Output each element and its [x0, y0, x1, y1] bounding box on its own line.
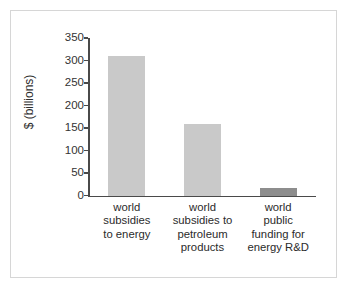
y-axis-tick-mark	[84, 195, 88, 196]
y-axis-tick: 200	[42, 106, 84, 107]
category-label: world subsidies to petroleum products	[163, 201, 243, 255]
y-axis-tick-mark	[84, 150, 88, 151]
bar-chart-plot: $ (billions) 050100150200250300350 world…	[0, 0, 349, 290]
bar-column	[108, 38, 145, 196]
bar	[260, 188, 297, 196]
bars-container	[89, 38, 316, 196]
y-axis-tick: 300	[42, 61, 84, 62]
y-axis-tick: 100	[42, 151, 84, 152]
y-axis-tick: 150	[42, 128, 84, 129]
y-axis-tick: 350	[42, 38, 84, 39]
y-axis-tick-label: 300	[48, 55, 84, 67]
category-label: world subsidies to energy	[87, 201, 167, 241]
y-axis-tick-label: 350	[48, 32, 84, 44]
chart-figure: $ (billions) 050100150200250300350 world…	[0, 0, 349, 290]
y-axis-tick-mark	[84, 60, 88, 61]
bar	[108, 56, 145, 196]
y-axis-tick: 50	[42, 173, 84, 174]
bar-column	[184, 38, 221, 196]
y-axis-tick-mark	[84, 37, 88, 38]
y-axis-tick-mark	[84, 127, 88, 128]
y-axis-tick-label: 250	[48, 77, 84, 89]
y-axis-tick-label: 100	[48, 145, 84, 157]
y-axis-tick-mark	[84, 82, 88, 83]
category-label: world public funding for energy R&D	[238, 201, 318, 255]
x-axis-line	[88, 196, 316, 198]
y-axis-tick-label: 200	[48, 100, 84, 112]
y-axis-tick-mark	[84, 172, 88, 173]
y-axis-tick-label: 0	[48, 190, 84, 202]
y-axis-tick-label: 150	[48, 122, 84, 134]
y-axis-title: $ (billions)	[22, 57, 36, 147]
y-axis-tick-mark	[84, 105, 88, 106]
bar-column	[260, 38, 297, 196]
y-axis-tick: 0	[42, 196, 84, 197]
y-axis-tick: 250	[42, 83, 84, 84]
y-axis-tick-label: 50	[48, 167, 84, 179]
bar	[184, 124, 221, 195]
